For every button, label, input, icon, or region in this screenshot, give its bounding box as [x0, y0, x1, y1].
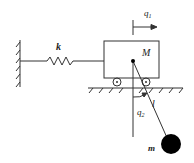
cart-box — [104, 41, 159, 78]
ground — [88, 88, 183, 93]
label-m: m — [148, 143, 155, 153]
label-l: l — [152, 98, 155, 109]
pendulum-mass — [161, 134, 181, 154]
displacement-arrow — [133, 20, 157, 35]
spring — [20, 57, 104, 65]
label-M: M — [141, 47, 151, 58]
label-q1: q1 — [144, 8, 152, 19]
cart-pendulum-diagram: k M q1 q2 l m — [0, 0, 194, 163]
pendulum-rod — [133, 61, 168, 140]
label-k: k — [56, 41, 61, 52]
label-q2: q2 — [137, 107, 145, 118]
pivot-point — [131, 59, 135, 63]
fixed-wall — [16, 40, 20, 87]
